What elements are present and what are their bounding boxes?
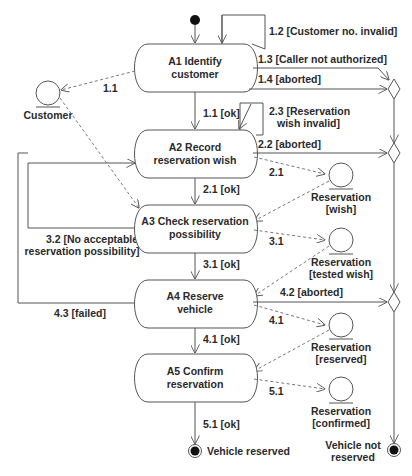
- entity-customer-label: Customer: [23, 109, 72, 121]
- transition-1-1: 1.1 [ok]: [195, 92, 240, 129]
- activity-a1[interactable]: A1 Identify customer: [135, 44, 258, 92]
- end-label-vehicle-reserved: Vehicle reserved: [207, 445, 290, 457]
- transition-label-3-1: 3.1 [ok]: [203, 258, 240, 270]
- transition-1-4: 1.4 [aborted]: [249, 73, 387, 89]
- entity-reservation-reserved[interactable]: Reservation [reserved]: [311, 313, 371, 365]
- end-node-vehicle-reserved: Vehicle reserved: [189, 445, 290, 458]
- merge-node-3: [388, 292, 400, 312]
- activity-a5-line1: A5 Confirm: [167, 365, 224, 377]
- entity-reservation-wish-line2: [wish]: [326, 203, 356, 215]
- transition-label-2-3a: 2.3 [Reservation: [269, 105, 350, 117]
- data-flow-1-1: 1.1: [61, 71, 135, 94]
- transition-3-2: 3.2 [No acceptable reservation possibili…: [25, 163, 140, 257]
- start-node: [190, 15, 200, 25]
- activity-a4-line1: A4 Reserve: [166, 290, 223, 302]
- activity-diagram: 1.2 [Customer no. invalid] A1 Identify c…: [0, 0, 412, 476]
- activity-a4[interactable]: A4 Reserve vehicle: [135, 280, 258, 328]
- transition-2-1: 2.1 [ok]: [195, 178, 240, 204]
- entity-customer[interactable]: Customer: [23, 81, 72, 121]
- transition-label-1-1: 1.1 [ok]: [203, 107, 240, 119]
- activity-a3-line1: A3 Check reservation: [141, 215, 248, 227]
- merge-node-1: [388, 79, 400, 99]
- activity-a3[interactable]: A3 Check reservation possibility: [135, 205, 258, 253]
- entity-reservation-reserved-line2: [reserved]: [316, 353, 367, 365]
- end-node-vehicle-not-reserved: Vehicle not reserved: [325, 439, 400, 463]
- data-flow-3-1: 3.1: [254, 230, 325, 247]
- entity-reservation-wish-line1: Reservation: [311, 191, 371, 203]
- transition-label-4-3: 4.3 [failed]: [54, 307, 106, 319]
- data-flow-label-3-1: 3.1: [269, 235, 284, 247]
- transition-label-2-2: 2.2 [aborted]: [258, 138, 321, 150]
- activity-a5-line2: reservation: [167, 378, 224, 390]
- data-flow-label-2-1: 2.1: [269, 166, 284, 178]
- transition-label-4-2: 4.2 [aborted]: [280, 286, 343, 298]
- transition-label-4-1: 4.1 [ok]: [203, 333, 240, 345]
- transition-label-3-2b: reservation possibility]: [25, 245, 140, 257]
- transition-3-1: 3.1 [ok]: [195, 253, 240, 279]
- transition-2-3: 2.3 [Reservation wish invalid]: [239, 103, 350, 135]
- data-flow-label-1-1: 1.1: [103, 82, 118, 94]
- transition-label-1-2: 1.2 [Customer no. invalid]: [269, 25, 397, 37]
- entity-reservation-confirmed-line1: Reservation: [311, 405, 371, 417]
- activity-a2[interactable]: A2 Record reservation wish: [135, 130, 258, 178]
- transition-label-2-1: 2.1 [ok]: [203, 183, 240, 195]
- data-flow-5-1: 5.1: [254, 379, 325, 397]
- entity-reservation-confirmed[interactable]: Reservation [confirmed]: [311, 377, 371, 429]
- data-flow-2-1: 2.1: [254, 157, 325, 178]
- entity-reservation-wish[interactable]: Reservation [wish]: [311, 163, 371, 215]
- transition-5-1: 5.1 [ok]: [195, 402, 240, 444]
- transition-4-1: 4.1 [ok]: [195, 328, 240, 353]
- activity-a1-line2: customer: [171, 68, 218, 80]
- end-label-vehicle-not-reserved-2: reserved: [331, 451, 375, 463]
- merge-node-2: [388, 143, 400, 163]
- entity-reservation-tested-wish[interactable]: Reservation [tested wish]: [309, 228, 373, 280]
- transition-label-1-4: 1.4 [aborted]: [258, 73, 321, 85]
- activity-a5[interactable]: A5 Confirm reservation: [135, 354, 258, 402]
- transition-2-2: 2.2 [aborted]: [253, 138, 387, 153]
- activity-a2-line2: reservation wish: [154, 154, 237, 166]
- transition-label-2-3b: wish invalid]: [276, 117, 340, 129]
- data-flow-label-4-1: 4.1: [269, 314, 284, 326]
- transition-label-1-3: 1.3 [Caller not authorized]: [258, 53, 387, 65]
- transition-label-5-1: 5.1 [ok]: [203, 418, 240, 430]
- transition-1-2: 1.2 [Customer no. invalid]: [222, 15, 397, 49]
- data-flow-4-1: 4.1: [254, 305, 325, 326]
- entity-reservation-reserved-line1: Reservation: [311, 341, 371, 353]
- activity-a3-line2: possibility: [169, 228, 221, 240]
- transition-4-2: 4.2 [aborted]: [253, 286, 387, 302]
- data-flow-label-5-1: 5.1: [269, 385, 284, 397]
- entity-reservation-tested-line1: Reservation: [311, 256, 371, 268]
- transition-label-3-2a: 3.2 [No acceptable: [46, 233, 138, 245]
- entity-reservation-confirmed-line2: [confirmed]: [312, 417, 370, 429]
- end-label-vehicle-not-reserved-1: Vehicle not: [325, 439, 381, 451]
- activity-a4-line2: vehicle: [177, 303, 213, 315]
- activity-a1-line1: A1 Identify: [168, 55, 222, 67]
- activity-a2-line1: A2 Record: [169, 141, 222, 153]
- entity-reservation-tested-line2: [tested wish]: [309, 268, 373, 280]
